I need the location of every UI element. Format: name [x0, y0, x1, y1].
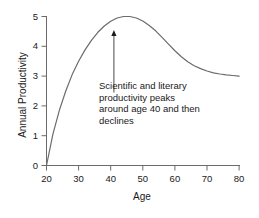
x-tick-label-70: 70: [202, 174, 213, 184]
y-axis-ticks: [42, 17, 47, 166]
annotation-line-4: declines: [99, 115, 235, 127]
x-axis-label: Age: [46, 192, 238, 202]
x-tick-label-60: 60: [170, 174, 181, 184]
x-tick-label-40: 40: [105, 174, 116, 184]
y-axis-label: Annual Productivity: [18, 25, 28, 165]
peak-annotation-text: Scientific and literary productivity pea…: [99, 80, 235, 126]
x-tick-label-20: 20: [41, 174, 52, 184]
x-axis-ticks: [47, 166, 240, 171]
x-tick-label-30: 30: [73, 174, 84, 184]
annotation-line-3: around age 40 and then: [99, 103, 235, 115]
y-tick-label-5: 5: [26, 12, 38, 22]
x-tick-label-50: 50: [138, 174, 149, 184]
x-tick-label-80: 80: [234, 174, 245, 184]
productivity-vs-age-chart: 5 4 3 2 1 0 20 30 40 50 60 70 80 Annual …: [0, 0, 259, 218]
annotation-line-1: Scientific and literary: [99, 80, 235, 92]
annotation-line-2: productivity peaks: [99, 92, 235, 104]
